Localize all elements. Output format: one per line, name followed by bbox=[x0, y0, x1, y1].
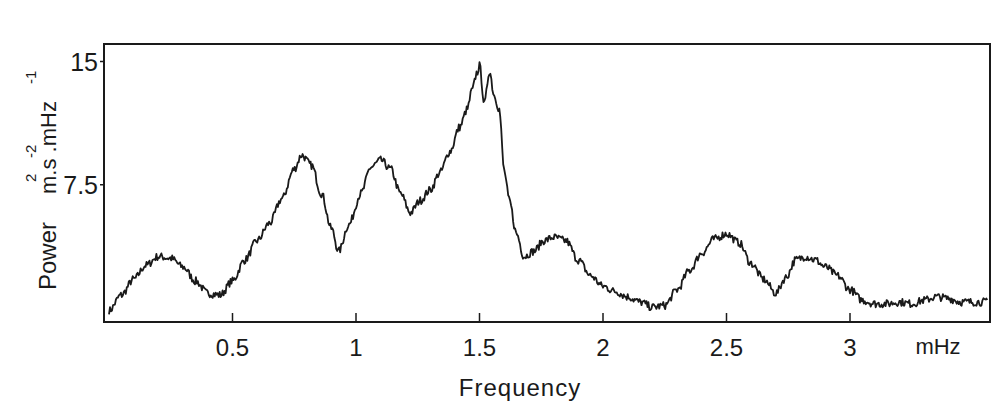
y-tick-label: 7.5 bbox=[63, 171, 98, 199]
y-axis-title-group: Power m.s .mHz 2 -2 -1 bbox=[22, 71, 61, 290]
x-tick-label: 1.5 bbox=[463, 334, 496, 361]
x-unit-label: mHz bbox=[915, 334, 960, 359]
x-axis-title: Frequency bbox=[459, 374, 581, 401]
y-axis-title: Power bbox=[34, 222, 61, 290]
x-tick-label: 3 bbox=[843, 334, 856, 361]
x-tick-label: 2.5 bbox=[710, 334, 743, 361]
y-unit-ms: m.s bbox=[36, 159, 61, 194]
x-tick-label: 0.5 bbox=[216, 334, 249, 361]
x-axis-ticks: 0.511.522.53 bbox=[216, 313, 857, 361]
x-tick-label: 1 bbox=[349, 334, 362, 361]
y-axis-ticks: 7.515 bbox=[63, 48, 104, 199]
y-unit-label: m.s .mHz bbox=[36, 101, 61, 194]
x-tick-label: 2 bbox=[596, 334, 609, 361]
y-tick-label: 15 bbox=[70, 48, 98, 76]
y-unit-exp-s: -2 bbox=[22, 145, 39, 158]
y-unit-exp-mhz: -1 bbox=[22, 71, 39, 84]
y-unit-mhz: .mHz bbox=[36, 101, 61, 152]
power-spectrum-line bbox=[109, 62, 987, 314]
power-spectrum-chart: 0.511.522.53 7.515 mHz Frequency Power m… bbox=[0, 0, 1006, 419]
y-unit-exp-m: 2 bbox=[22, 174, 39, 182]
plot-frame bbox=[104, 44, 990, 322]
